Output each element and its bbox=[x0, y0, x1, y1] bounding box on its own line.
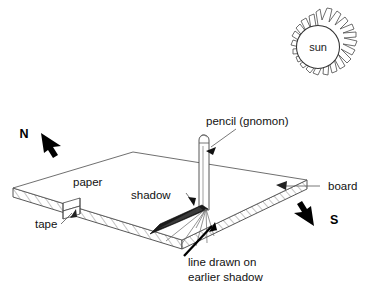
shadow-gnomon-diagram: sun bbox=[0, 0, 370, 291]
pencil-label: pencil (gnomon) bbox=[206, 115, 289, 127]
north-label: N bbox=[19, 127, 28, 141]
sun-icon: sun bbox=[291, 8, 357, 75]
south-label: S bbox=[330, 213, 338, 227]
north-arrow-icon bbox=[41, 133, 61, 158]
earlier-shadow-label-line1: line drawn on bbox=[188, 256, 256, 268]
board-label: board bbox=[328, 180, 357, 192]
north-arrow-shape bbox=[41, 133, 61, 158]
pencil-leader-line bbox=[211, 129, 236, 147]
pencil-leader bbox=[206, 129, 236, 155]
diagram-canvas: sun bbox=[0, 0, 370, 291]
tape-label: tape bbox=[35, 218, 57, 230]
pencil-gnomon-object bbox=[199, 135, 209, 210]
south-arrow-icon bbox=[294, 201, 314, 226]
paper-label: paper bbox=[73, 176, 103, 188]
south-arrow-shape bbox=[294, 201, 314, 226]
shadow-label: shadow bbox=[131, 189, 171, 201]
sun-label: sun bbox=[309, 41, 327, 53]
earlier-shadow-label-line2: earlier shadow bbox=[188, 271, 263, 283]
pencil-shaft bbox=[199, 135, 209, 210]
